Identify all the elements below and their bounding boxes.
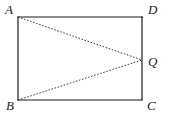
figure-background	[0, 0, 169, 120]
vertex-label-a: A	[5, 3, 13, 16]
vertex-label-d: D	[148, 3, 157, 16]
vertex-label-b: B	[6, 99, 14, 112]
geometry-canvas	[0, 0, 169, 120]
geometry-figure: A D Q B C	[0, 0, 169, 120]
vertex-label-c: C	[147, 99, 156, 112]
vertex-label-q: Q	[148, 55, 157, 68]
